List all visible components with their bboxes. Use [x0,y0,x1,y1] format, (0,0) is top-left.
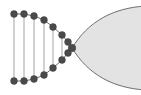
figure-canvas [0,0,141,95]
node-l5 [50,65,57,72]
node-u4 [41,17,48,24]
node-l6 [59,57,66,64]
filled-lens-region [72,6,141,90]
node-l2 [21,78,28,85]
apex-node [68,44,76,52]
node-l4 [41,72,48,79]
graph-nodes-group [11,11,76,85]
node-u2 [21,11,28,18]
node-u1 [11,11,18,18]
node-u5 [50,24,57,31]
node-u6 [59,32,66,39]
graph-figure-svg [0,0,141,95]
node-u3 [31,13,38,20]
node-l1 [11,78,18,85]
node-l3 [31,76,38,83]
